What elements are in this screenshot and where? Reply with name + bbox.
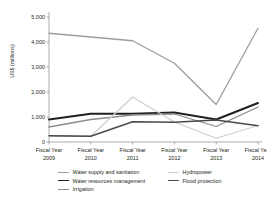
legend-swatch-line-icon xyxy=(58,172,69,173)
y-tick-label: 1,000 xyxy=(19,114,45,120)
x-tick-label-prefix: Fiscal Year xyxy=(237,147,267,155)
legend-label: Irrigation xyxy=(73,186,94,192)
y-tick-label: 5,000 xyxy=(19,14,45,20)
x-tick-label-prefix: Fiscal Year xyxy=(112,147,154,155)
series-line-hydropower xyxy=(49,97,258,138)
x-tick-label-prefix: Fiscal Year xyxy=(70,147,112,155)
x-tick-label-group: Fiscal Year2009 xyxy=(28,147,70,162)
legend-label: Flood protection xyxy=(183,178,222,184)
x-tick-label-group: Fiscal Year2011 xyxy=(112,147,154,162)
x-tick-label-group: Fiscal Year2012 xyxy=(153,147,195,162)
series-line-water-resources-management xyxy=(49,103,258,120)
x-tick-label-year: 2014 xyxy=(237,155,267,163)
legend-label: Water resources management xyxy=(73,178,146,184)
series-line-water-supply-and-sanitation xyxy=(49,28,258,104)
legend-item[interactable]: Water supply and sanitation xyxy=(58,168,145,177)
x-tick-label-group: Fiscal Year2013 xyxy=(195,147,237,162)
legend-label: Hydropower xyxy=(183,169,212,175)
legend-label: Water supply and sanitation xyxy=(73,169,140,175)
y-tick-label: 4,000 xyxy=(19,39,45,45)
legend-item[interactable]: Water resources management xyxy=(58,177,145,186)
chart-legend: Water supply and sanitationWater resourc… xyxy=(0,168,267,203)
x-tick-label-year: 2010 xyxy=(70,155,112,163)
x-tick-label-year: 2011 xyxy=(112,155,154,163)
x-tick-label-prefix: Fiscal Year xyxy=(195,147,237,155)
x-tick-label-prefix: Fiscal Year xyxy=(28,147,70,155)
y-tick-label: 0 xyxy=(19,139,45,145)
series-line-flood-protection xyxy=(49,120,258,136)
x-tick-label-year: 2013 xyxy=(195,155,237,163)
x-tick-label-year: 2012 xyxy=(153,155,195,163)
x-tick-label-year: 2009 xyxy=(28,155,70,163)
x-tick-label-prefix: Fiscal Year xyxy=(153,147,195,155)
legend-swatch-line-icon xyxy=(58,180,69,181)
y-axis-title: US$ (millions) xyxy=(9,25,15,97)
y-tick-label: 3,000 xyxy=(19,64,45,70)
x-tick-label-group: Fiscal Year2014 xyxy=(237,147,267,162)
legend-item[interactable]: Flood protection xyxy=(168,177,221,186)
legend-column-left: Water supply and sanitationWater resourc… xyxy=(58,168,145,194)
chart-container: US$ (millions) 01,0002,0003,0004,0005,00… xyxy=(0,0,267,203)
legend-swatch-line-icon xyxy=(58,189,69,190)
legend-item[interactable]: Hydropower xyxy=(168,168,221,177)
legend-item[interactable]: Irrigation xyxy=(58,185,145,194)
y-tick-label: 2,000 xyxy=(19,89,45,95)
legend-column-right: HydropowerFlood protection xyxy=(168,168,221,185)
legend-swatch-line-icon xyxy=(168,180,179,181)
legend-swatch-line-icon xyxy=(168,172,179,173)
x-tick-label-group: Fiscal Year2010 xyxy=(70,147,112,162)
